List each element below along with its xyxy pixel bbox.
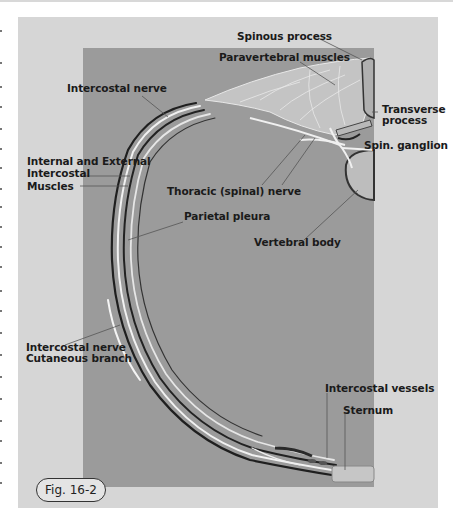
label-transverse-process-line2: process <box>382 114 427 126</box>
label-intercostal-muscles-line2: Intercostal <box>27 167 90 179</box>
label-intercostal-vessels: Intercostal vessels <box>325 382 434 394</box>
sternum-shape <box>332 466 374 482</box>
label-spinous-process: Spinous process <box>237 30 332 42</box>
figure-number-badge: Fig. 16-2 <box>36 478 106 502</box>
thorax-cross-section-illustration <box>0 0 453 525</box>
paravertebral-muscle-shape <box>205 58 372 135</box>
label-intercostal-muscles-line3: Muscles <box>27 180 74 192</box>
label-cutaneous-branch-line2: Cutaneous branch <box>26 352 132 364</box>
label-parietal-pleura: Parietal pleura <box>184 210 270 222</box>
spinous-process-shape <box>362 58 374 118</box>
parietal-pleura-line <box>131 114 334 460</box>
vertebral-body-shape <box>346 150 374 200</box>
label-intercostal-nerve: Intercostal nerve <box>67 82 167 94</box>
label-spin-ganglion: Spin. ganglion <box>364 139 448 151</box>
label-paravertebral-muscles: Paravertebral muscles <box>219 51 350 63</box>
label-intercostal-muscles-line1: Internal and External <box>27 155 151 167</box>
label-sternum: Sternum <box>343 404 393 416</box>
label-vertebral-body: Vertebral body <box>254 236 341 248</box>
label-thoracic-spinal-nerve: Thoracic (spinal) nerve <box>167 185 301 197</box>
